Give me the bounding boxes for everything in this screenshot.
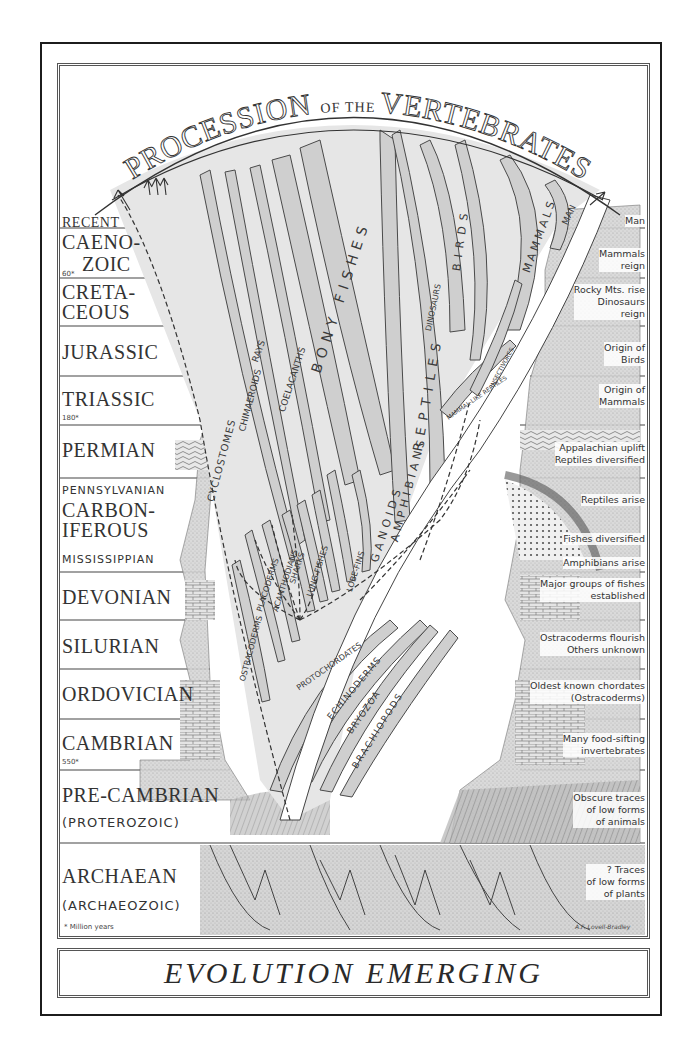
- era-label-archaeozoic: (ARCHAEOZOIC): [62, 898, 181, 913]
- event-note-silurian: Ostracoderms flourishOthers unknown: [540, 632, 645, 656]
- event-note-archaean: ? Tracesof low formsof plants: [586, 864, 645, 900]
- myr-label-60: 60*: [62, 270, 74, 278]
- era-label-pennsylvanian: PENNSYLVANIAN: [62, 484, 165, 497]
- era-label-silurian: SILURIAN: [62, 636, 159, 656]
- event-note-precambrian: Obscure tracesof low formsof animals: [573, 792, 645, 828]
- era-label-proterozoic: (PROTEROZOIC): [62, 815, 180, 830]
- event-note-mississippian-2: Amphibians arise: [563, 557, 645, 569]
- era-label-precambrian: PRE-CAMBRIAN: [62, 785, 219, 805]
- event-note-devonian: Major groups of fishesestablished: [540, 578, 645, 602]
- event-note-ordovician: Oldest known chordates(Ostracoderms): [530, 680, 645, 704]
- event-note-jurassic: Origin ofBirds: [604, 342, 645, 366]
- era-label-cretaceous-2: CEOUS: [62, 302, 130, 322]
- era-label-mississippian: MISSISSIPPIAN: [62, 553, 154, 566]
- event-note-triassic: Origin ofMammals: [599, 384, 645, 408]
- era-label-recent: RECENT: [62, 213, 119, 233]
- bottom-title-box: EVOLUTION EMERGING: [57, 948, 650, 998]
- event-note-permian: Appalachian upliftReptiles diversified: [555, 442, 645, 466]
- event-note-cretaceous: Rocky Mts. riseDinosaursreign: [574, 284, 645, 320]
- event-note-mississippian-1: Fishes diversified: [563, 533, 645, 545]
- myr-label-180: 180*: [62, 414, 79, 422]
- legend-million-years: * Million years: [64, 923, 114, 931]
- era-label-caenozoic-2: ZOIC: [82, 254, 131, 274]
- era-label-carboniferous-1: CARBON-: [62, 500, 156, 520]
- era-label-cambrian: CAMBRIAN: [62, 733, 174, 753]
- myr-label-550: 550*: [62, 758, 79, 766]
- bottom-title: EVOLUTION EMERGING: [164, 956, 543, 990]
- event-note-cambrian: Many food-siftinginvertebrates: [563, 733, 645, 757]
- era-label-jurassic: JURASSIC: [62, 342, 158, 362]
- era-label-devonian: DEVONIAN: [62, 587, 172, 607]
- event-note-pennsylvanian: Reptiles arise: [581, 494, 645, 506]
- era-label-ordovician: ORDOVICIAN: [62, 684, 194, 704]
- era-label-archaean: ARCHAEAN: [62, 866, 177, 886]
- era-label-cretaceous-1: CRETA-: [62, 282, 136, 302]
- artist-credit: A.F. Lovell-Bradley: [575, 923, 630, 930]
- era-label-permian: PERMIAN: [62, 440, 156, 460]
- era-label-carboniferous-2: IFEROUS: [62, 520, 149, 540]
- era-label-caenozoic-1: CAENO-: [62, 232, 141, 252]
- event-note-caenozoic: Mammalsreign: [599, 248, 645, 272]
- event-note-recent: Man: [625, 215, 645, 227]
- era-label-triassic: TRIASSIC: [62, 389, 155, 409]
